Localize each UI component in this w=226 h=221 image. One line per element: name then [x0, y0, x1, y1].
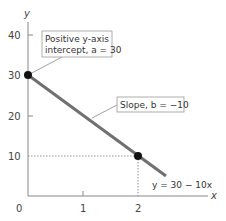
y-tick-label-10: 10: [8, 151, 21, 162]
intercept-leader-line: [30, 57, 62, 74]
x-tick-label-1: 1: [80, 203, 86, 214]
y-tick-label-40: 40: [8, 30, 21, 41]
origin-label: 0: [16, 203, 22, 214]
slope-annotation: Slope, b = −10: [120, 100, 189, 110]
y-tick-label-20: 20: [8, 111, 21, 122]
point-2-10: [134, 152, 142, 160]
line-chart: y x 40 30 20 10 0 1 2 Positive y-axis in…: [0, 0, 226, 221]
x-axis-label: x: [210, 190, 217, 201]
intercept-point: [24, 71, 32, 79]
y-tick-label-30: 30: [8, 70, 21, 81]
intercept-annotation-line1: Positive y-axis: [45, 34, 109, 44]
intercept-annotation-line2: intercept, a = 30: [45, 45, 122, 55]
equation-label: y = 30 − 10x: [152, 180, 213, 190]
x-tick-label-2: 2: [135, 203, 141, 214]
y-axis-label: y: [23, 8, 31, 19]
slope-leader-line: [92, 105, 117, 118]
data-line: [28, 75, 166, 176]
